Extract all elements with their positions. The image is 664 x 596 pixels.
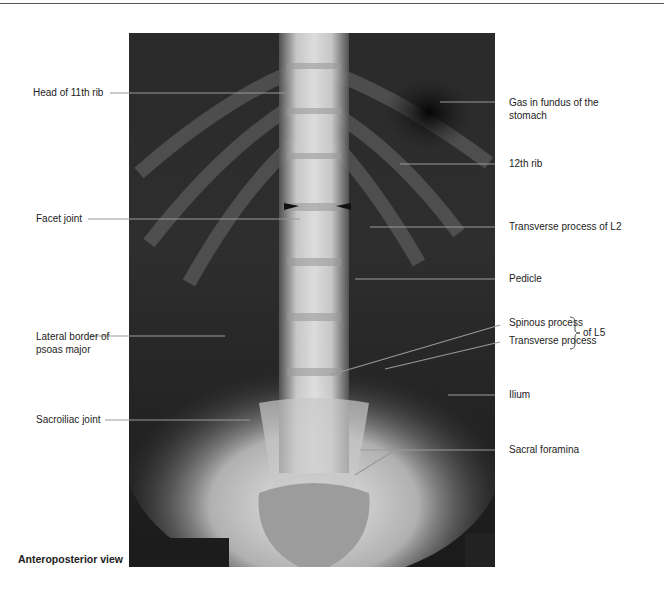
- xray-graphic: [129, 33, 495, 567]
- label-ilium: Ilium: [509, 388, 530, 401]
- label-12th-rib: 12th rib: [509, 157, 542, 170]
- label-facet-joint: Facet joint: [36, 212, 82, 225]
- label-sacral-foramina: Sacral foramina: [509, 443, 579, 456]
- figure-caption: Anteroposterior view: [18, 553, 123, 565]
- label-lateral-border-psoas: Lateral border of psoas major: [36, 330, 126, 356]
- top-rule: [0, 3, 664, 4]
- label-sacroiliac-joint: Sacroiliac joint: [36, 413, 100, 426]
- label-of-l5: of L5: [583, 326, 605, 339]
- label-transverse-process-l2: Transverse process of L2: [509, 220, 621, 233]
- label-head-11th-rib: Head of 11th rib: [33, 86, 103, 99]
- label-spinous-process: Spinous process: [509, 316, 583, 329]
- label-pedicle: Pedicle: [509, 272, 542, 285]
- xray-image: [129, 33, 495, 567]
- label-gas-fundus: Gas in fundus of the stomach: [509, 96, 609, 122]
